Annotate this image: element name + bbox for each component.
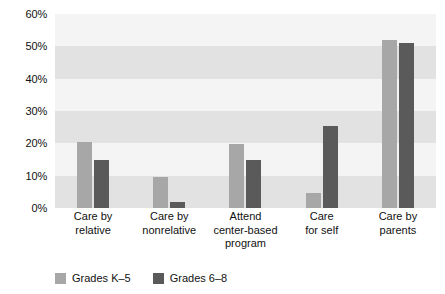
bar [170,202,185,208]
bar [399,43,414,208]
bar-group [360,14,436,208]
y-axis-tick-label: 30% [26,105,47,117]
bar [382,40,397,208]
x-axis-tick-label: Care byparents [348,210,445,237]
bar-group [131,14,207,208]
legend-item-label: Grades K–5 [72,272,131,284]
y-axis-tick-label: 50% [26,40,47,52]
chart-legend: Grades K–5Grades 6–8 [55,269,249,287]
bar-group [284,14,360,208]
y-axis-tick-label: 40% [26,73,47,85]
y-axis: 60%50%40%30%20%10%0% [0,14,52,208]
bar [229,144,244,208]
legend-swatch-dark [153,273,164,284]
bar-group [207,14,283,208]
legend-item[interactable]: Grades 6–8 [153,272,227,284]
plot-area [55,14,436,208]
legend-item-label: Grades 6–8 [170,272,227,284]
x-axis-tick-label-line: Care by [348,210,445,224]
bar [306,193,321,208]
y-axis-tick-label: 20% [26,137,47,149]
x-axis-tick-label-line: parents [348,224,445,238]
bar-group [55,14,131,208]
bar [94,160,109,209]
legend-item[interactable]: Grades K–5 [55,272,131,284]
bar [77,142,92,208]
legend-swatch-light [55,273,66,284]
bar [323,126,338,208]
y-axis-tick-label: 10% [26,170,47,182]
bar [246,160,261,209]
x-axis-tick-label-line: program [195,237,295,251]
bar-chart-figure: 60%50%40%30%20%10%0% Care byrelativeCare… [0,0,445,294]
x-axis: Care byrelativeCare bynonrelativeAttendc… [55,210,436,262]
bar [153,177,168,208]
bars-layer [55,14,436,208]
y-axis-tick-label: 60% [26,8,47,20]
